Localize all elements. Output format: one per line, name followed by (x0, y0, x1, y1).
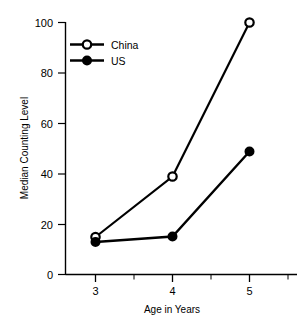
y-tick-label-80: 80 (41, 67, 53, 79)
series-us-point-age5 (246, 148, 254, 156)
series-china (91, 18, 253, 241)
y-axis-ticks (58, 23, 66, 275)
open-circle-icon (83, 40, 91, 48)
legend: China US (70, 39, 139, 67)
chart-canvas: 100 80 60 40 20 0 3 4 5 Age in Years Med… (0, 0, 305, 324)
x-tick-label-5: 5 (246, 285, 252, 297)
y-axis-tick-labels: 100 80 60 40 20 0 (35, 17, 53, 281)
x-tick-label-3: 3 (92, 285, 98, 297)
x-axis-ticks (96, 275, 289, 283)
legend-entry-us: US (70, 55, 126, 67)
series-china-point-age5 (245, 18, 253, 26)
series-us (92, 148, 254, 247)
y-tick-label-100: 100 (35, 17, 53, 29)
y-tick-label-20: 20 (41, 219, 53, 231)
legend-entry-china: China (70, 39, 139, 51)
series-us-point-age4 (169, 233, 177, 241)
x-axis-tick-labels: 3 4 5 (92, 285, 252, 297)
y-axis-title: Median Counting Level (19, 97, 30, 199)
filled-circle-icon (83, 57, 91, 65)
series-us-point-age3 (92, 238, 100, 246)
y-tick-label-40: 40 (41, 168, 53, 180)
y-tick-label-60: 60 (41, 118, 53, 130)
x-axis-title: Age in Years (144, 304, 200, 315)
series-us-line (96, 152, 250, 243)
legend-label-us: US (111, 55, 126, 67)
y-tick-label-0: 0 (47, 269, 53, 281)
series-china-point-age4 (168, 172, 176, 180)
x-tick-label-4: 4 (169, 285, 175, 297)
legend-label-china: China (111, 39, 139, 51)
line-chart: 100 80 60 40 20 0 3 4 5 Age in Years Med… (0, 0, 305, 324)
